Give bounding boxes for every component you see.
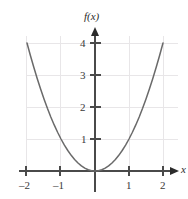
y-axis [90,27,101,192]
xtick-label-neg1: –1 [53,180,64,191]
y-axis-label: f(x) [84,11,99,22]
ytick-label-2: 2 [80,102,86,113]
plot-canvas [0,0,188,199]
y-axis-arrowhead [91,27,99,36]
x-axis-label: x [181,164,186,175]
xtick-label-pos1: 1 [126,180,132,191]
ytick-label-3: 3 [80,70,86,81]
xtick-label-neg2: –2 [19,180,30,191]
parabola-figure: f(x) x –2 –1 1 2 4 3 2 1 [0,0,188,199]
x-axis-arrowhead [170,167,179,175]
ytick-label-1: 1 [81,134,87,145]
gridlines [26,36,178,171]
xtick-label-pos2: 2 [160,180,166,191]
ytick-label-4: 4 [80,38,86,49]
